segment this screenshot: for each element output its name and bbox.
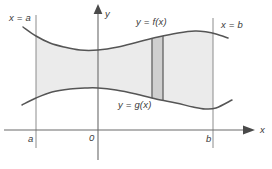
x-axis-label: x: [260, 125, 265, 135]
x-axis-tick-label-a: a: [28, 134, 33, 144]
x-axis-arrow-icon: [243, 126, 255, 135]
x-axis-tick-label-b: b: [206, 134, 211, 144]
origin-tick-label: 0: [89, 133, 94, 143]
label-x-equals-a: x = a: [9, 13, 31, 23]
y-axis-label: y: [105, 9, 110, 19]
shaded-region-between-curves: [36, 31, 213, 109]
area-between-curves-figure: x = a x = b y = f(x) y = g(x) a 0 b y x: [0, 0, 272, 169]
label-y-equals-g-of-x: y = g(x): [118, 100, 152, 110]
label-x-equals-b: x = b: [221, 20, 243, 30]
y-axis-arrow-icon: [94, 4, 103, 14]
label-y-equals-f-of-x: y = f(x): [136, 17, 167, 27]
